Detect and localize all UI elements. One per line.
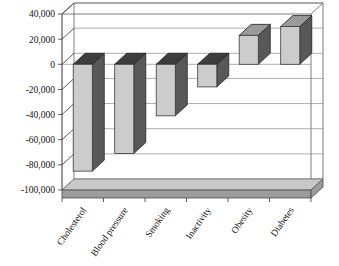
bar-side-face — [92, 53, 104, 171]
ytick-label: -40,000 — [26, 110, 56, 120]
bar-front-face — [281, 27, 300, 65]
bar-front-face — [115, 64, 134, 153]
category-label: Cholesterol — [55, 205, 89, 247]
bar-front-face — [239, 35, 258, 64]
ytick-label: 0 — [50, 60, 55, 70]
bar-group — [156, 53, 187, 116]
bar-group — [73, 53, 104, 171]
gridline-depth-connector — [62, 28, 74, 39]
category-label: Blood pressure — [89, 205, 130, 258]
category-label: Diabetes — [269, 205, 296, 238]
category-label: Obesity — [229, 205, 254, 235]
bar-chart: 40,00020,0000-20,000-40,000-60,000-80,00… — [0, 0, 339, 266]
gridline-depth-connector — [62, 78, 74, 89]
ytick-label: 20,000 — [29, 35, 55, 45]
gridline-depth-connector — [62, 129, 74, 140]
chart-canvas: 40,00020,0000-20,000-40,000-60,000-80,00… — [0, 0, 339, 266]
gridline-depth-connector — [62, 104, 74, 115]
gridline-depth-connector — [62, 53, 74, 64]
gridline-depth-connector — [62, 3, 74, 14]
bar-group — [115, 53, 146, 153]
category-label: Inactivity — [184, 205, 213, 241]
gridline-depth-connector — [62, 154, 74, 165]
floor-top-surface — [62, 179, 323, 190]
category-label: Smoking — [144, 205, 172, 239]
ytick-label: -80,000 — [26, 160, 56, 170]
bar-front-face — [73, 64, 92, 171]
bar-front-face — [198, 64, 217, 87]
bar-side-face — [134, 53, 146, 153]
ytick-label: 40,000 — [29, 9, 55, 19]
ytick-label: -20,000 — [26, 85, 56, 95]
ytick-label: -60,000 — [26, 135, 56, 145]
bar-group — [281, 16, 312, 65]
floor-front-face — [62, 190, 311, 198]
ytick-label: -100,000 — [21, 185, 55, 195]
bar-front-face — [156, 64, 175, 116]
